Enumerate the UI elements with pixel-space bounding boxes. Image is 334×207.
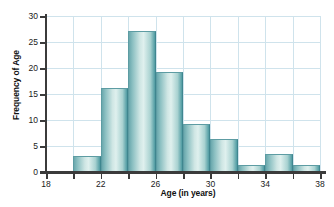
y-axis-line (45, 14, 47, 174)
y-tick-mark (40, 42, 45, 44)
x-tick-mark (73, 174, 75, 179)
y-tick-mark (40, 146, 45, 148)
y-tick-label: 20 (18, 64, 38, 73)
y-tick-mark (40, 68, 45, 70)
plot-area (46, 16, 320, 172)
histogram-chart: Frequency of Age 051015202530 1822263034… (0, 0, 334, 207)
y-tick-label: 10 (18, 116, 38, 125)
histogram-bar (73, 156, 100, 172)
x-axis-title: Age (in years) (0, 188, 334, 198)
y-tick-label: 30 (18, 12, 38, 21)
y-tick-mark (40, 120, 45, 122)
gridline-vertical (265, 16, 266, 172)
x-tick-mark (128, 174, 130, 179)
x-tick-mark (183, 174, 185, 179)
y-tick-mark (40, 172, 45, 174)
histogram-bar (265, 154, 292, 172)
x-tick-mark (238, 174, 240, 179)
histogram-bar (128, 31, 155, 172)
y-tick-label: 25 (18, 38, 38, 47)
y-tick-mark (40, 16, 45, 18)
x-tick-mark (293, 174, 295, 179)
y-tick-mark (40, 94, 45, 96)
gridline-vertical (238, 16, 239, 172)
gridline-vertical (73, 16, 74, 172)
y-tick-label: 15 (18, 90, 38, 99)
histogram-bar (210, 139, 237, 172)
y-tick-label: 5 (18, 142, 38, 151)
histogram-bar (101, 88, 128, 172)
gridline-vertical (320, 16, 321, 172)
histogram-bar (156, 72, 183, 172)
y-tick-label: 0 (18, 168, 38, 177)
gridline-vertical (293, 16, 294, 172)
histogram-bar (183, 124, 210, 172)
